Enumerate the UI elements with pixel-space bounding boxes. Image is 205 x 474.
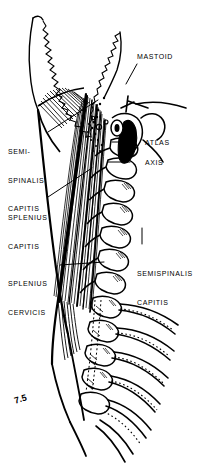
label-axis: AXIS [145,158,163,168]
label-splenius-cervicis: SPLENIUS CERVICIS [8,260,47,336]
label-atlas: ATLAS [145,138,170,148]
label-mastoid: MASTOID [137,52,173,62]
label-splenius-capitis: SPLENIUS CAPITIS [8,194,47,270]
label-semispinalis-capitis-right: SEMISPINALIS CAPITIS [137,250,193,326]
anatomical-figure: SEMI- SPINALIS CAPITIS SPLENIUS CAPITIS … [0,0,205,474]
